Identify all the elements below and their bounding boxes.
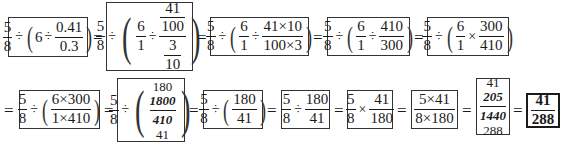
step-11-expression: 5×418×180 [411,90,458,129]
parenthesis-group: ( 6 ÷ 0.410.3 ) [25,20,94,55]
fraction-6-1: 61 [136,19,146,54]
step-7-expression: 58 ÷ ( 180 1800 410 41 ) [117,78,185,142]
fraction-5-8: 58 [109,93,119,128]
equals-sign: = [462,102,472,119]
complex-fraction: 41100 310 [159,1,186,73]
equals-sign: = [267,102,277,119]
divide-sign: ÷ [219,29,227,45]
parenthesis-group: ( 61 ÷ 41100 310 ) [118,1,204,73]
step-5-expression: 58 ÷ ( 61 × 300410 ) [427,17,509,56]
step-10-expression: 58 × 41180 [347,90,393,129]
fraction-5-8: 58 [346,92,356,127]
equals-sign: = [313,29,323,46]
step-9-expression: 58 ÷ 18041 [281,90,330,129]
parenthesis-group: ( 18041 ) [221,92,268,127]
cancelled-fraction: 41 205 1440 288 [480,76,506,137]
fraction-5-8: 58 [422,19,432,54]
parenthesis-group: ( 6×3001×410 ) [40,92,102,127]
cancelled-denominator: 1440 [480,108,506,124]
step-12-expression: 41 205 1440 288 [476,78,510,135]
step-1-expression: 58 ÷ ( 6 ÷ 0.410.3 ) [8,17,88,57]
fraction-5-8: 58 [199,92,209,127]
step-6-expression: 58 ÷ ( 6×3001×410 ) [19,90,100,129]
equals-sign: = [513,102,523,119]
cancelled-fraction: 180 1800 410 41 [150,80,176,141]
step-2-expression: 58 ÷ ( 61 ÷ 41100 310 ) [106,2,193,71]
cancelled-denominator: 410 [153,112,173,128]
multiply-sign: × [468,29,476,45]
cancelled-numerator: 1800 [150,93,176,109]
equals-sign: = [334,102,344,119]
divide-sign: ÷ [122,102,130,118]
divide-sign: ÷ [108,29,116,45]
multiply-sign: × [359,102,367,118]
fraction-decimal: 0.410.3 [55,20,83,55]
step-8-expression: 58 ÷ ( 18041 ) [203,90,263,129]
parenthesis-group: ( 61 ÷ 410300 ) [345,19,415,54]
parenthesis-group: ( 61 ÷ 41×10100×3 ) [228,19,314,54]
divide-sign: ÷ [435,29,443,45]
cancelled-numerator: 205 [483,89,503,105]
fraction-5-8: 58 [206,19,216,54]
divide-sign: ÷ [294,102,302,118]
fraction-5-8: 58 [323,19,333,54]
parenthesis-group: ( 180 1800 410 41 ) [131,80,194,141]
step-3-expression: 58 ÷ ( 61 ÷ 41×10100×3 ) [210,17,309,56]
divide-sign: ÷ [336,29,344,45]
result-fraction: 41288 [531,93,556,128]
step-4-expression: 58 ÷ ( 61 ÷ 410300 ) [327,17,410,56]
fraction-5-8: 58 [3,20,13,55]
parenthesis-group: ( 61 × 300410 ) [445,19,515,54]
fraction-5-8: 58 [96,19,106,54]
divide-sign: ÷ [212,102,220,118]
whole-number: 6 [35,29,43,46]
divide-sign: ÷ [30,102,38,118]
fraction-5-8: 58 [18,92,28,127]
divide-sign: ÷ [15,29,23,45]
equals-sign: = [4,102,14,119]
fraction-5-8: 58 [282,92,292,127]
equals-sign: = [189,102,199,119]
equals-sign: = [397,102,407,119]
final-result: 41288 [526,93,560,128]
